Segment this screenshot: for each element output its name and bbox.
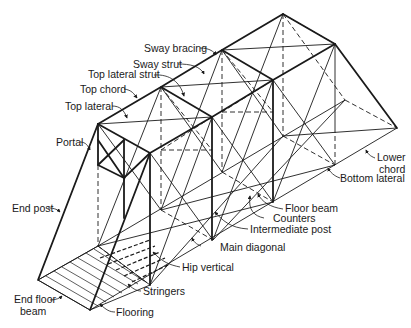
label-portal: Portal	[56, 137, 83, 148]
label-flooring: Flooring	[116, 307, 154, 318]
label-lower-chord-line2: chord	[379, 164, 405, 175]
label-top-chord: Top chord	[80, 84, 126, 95]
label-stringers: Stringers	[143, 286, 185, 297]
label-end-post: End post	[12, 203, 53, 214]
label-lower-chord-line1: Lower	[377, 152, 406, 163]
label-top-lateral-strut: Top lateral strut	[88, 69, 160, 80]
label-hip-vertical: Hip vertical	[182, 262, 234, 273]
stringers	[100, 240, 170, 282]
label-counters: Counters	[273, 213, 316, 224]
label-intermediate-post: Intermediate post	[250, 224, 331, 235]
label-top-lateral: Top lateral	[65, 101, 113, 112]
label-main-diagonal: Main diagonal	[220, 242, 285, 253]
label-sway-bracing: Sway bracing	[144, 43, 207, 54]
label-end-floor-beam-line2: beam	[20, 306, 46, 317]
label-floor-beam: Floor beam	[285, 203, 338, 214]
label-end-floor-beam-line1: End floor	[14, 294, 56, 305]
truss-bridge-diagram: Sway bracing Sway strut Top lateral stru…	[0, 0, 411, 328]
